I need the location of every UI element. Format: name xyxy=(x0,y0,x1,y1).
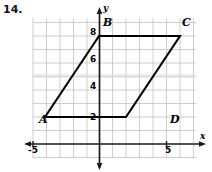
vertex-label-a: A xyxy=(39,114,48,125)
scan-artifact-band xyxy=(33,74,196,78)
x-tick-label-neg5: -5 xyxy=(28,146,38,155)
y-axis-label: y xyxy=(103,4,108,13)
y-tick-label-6: 6 xyxy=(90,55,96,64)
x-axis-arrow-right xyxy=(199,141,206,147)
y-tick-label-2: 2 xyxy=(90,113,96,122)
y-axis-arrow-down xyxy=(97,163,103,170)
x-axis-label: x xyxy=(200,132,205,141)
x-tick-label-5: 5 xyxy=(165,146,171,155)
vertex-label-c: C xyxy=(182,17,191,28)
y-tick-label-8: 8 xyxy=(90,28,96,37)
y-axis-arrow-up xyxy=(97,7,103,14)
vertex-label-b: B xyxy=(103,17,112,28)
grid-background xyxy=(33,18,196,158)
vertex-label-d: D xyxy=(170,114,180,125)
y-tick-label-4: 4 xyxy=(90,82,96,91)
